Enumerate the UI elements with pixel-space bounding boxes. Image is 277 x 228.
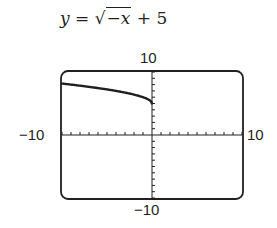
graph-window bbox=[0, 0, 277, 228]
function-curve bbox=[62, 84, 152, 104]
axes bbox=[62, 72, 242, 198]
